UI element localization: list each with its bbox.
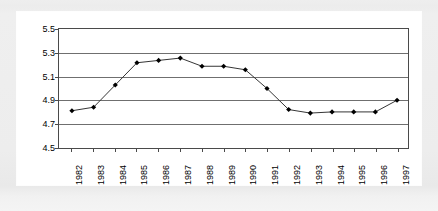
data-point-1996 <box>373 109 378 114</box>
y-tick-label-4-7: 4.7 <box>29 120 55 129</box>
x-tick-mark-1992 <box>289 148 290 152</box>
x-tick-label-1985: 1985 <box>140 165 149 185</box>
y-tick-label-4-9: 4.9 <box>29 96 55 105</box>
y-tick-label-5-1: 5.1 <box>29 73 55 82</box>
data-point-1982 <box>69 108 74 113</box>
x-tick-label-1995: 1995 <box>358 165 367 185</box>
data-point-1989 <box>221 64 226 69</box>
x-tick-mark-1994 <box>333 148 334 152</box>
x-tick-label-1990: 1990 <box>249 165 258 185</box>
x-tick-mark-1996 <box>376 148 377 152</box>
data-point-1988 <box>199 64 204 69</box>
x-tick-label-1984: 1984 <box>119 165 128 185</box>
x-tick-mark-1995 <box>354 148 355 152</box>
x-tick-mark-1984 <box>115 148 116 152</box>
y-axis-tick-labels: 5.55.35.14.94.74.5 <box>25 28 55 149</box>
x-tick-mark-1993 <box>311 148 312 152</box>
x-tick-mark-1986 <box>158 148 159 152</box>
x-tick-mark-1982 <box>71 148 72 152</box>
data-point-1986 <box>156 58 161 63</box>
y-tick-label-5-3: 5.3 <box>29 49 55 58</box>
x-tick-label-1997: 1997 <box>402 165 411 185</box>
series-line <box>72 58 397 113</box>
chart-screenshot: 5.55.35.14.94.74.5 198219831984198519861… <box>0 0 438 211</box>
x-tick-mark-1985 <box>136 148 137 152</box>
x-tick-mark-1997 <box>398 148 399 152</box>
x-tick-mark-1988 <box>202 148 203 152</box>
x-tick-mark-1991 <box>267 148 268 152</box>
data-point-1987 <box>178 56 183 61</box>
x-tick-label-1986: 1986 <box>162 165 171 185</box>
data-point-1993 <box>308 111 313 116</box>
plot-area <box>58 28 409 149</box>
x-tick-mark-1983 <box>93 148 94 152</box>
x-tick-label-1992: 1992 <box>293 165 302 185</box>
x-tick-mark-1987 <box>180 148 181 152</box>
x-tick-label-1983: 1983 <box>97 165 106 185</box>
x-tick-label-1996: 1996 <box>380 165 389 185</box>
data-point-1994 <box>329 109 334 114</box>
x-tick-label-1991: 1991 <box>271 165 280 185</box>
line-series <box>59 29 408 148</box>
x-tick-label-1989: 1989 <box>228 165 237 185</box>
x-tick-label-1987: 1987 <box>184 165 193 185</box>
x-axis-tick-labels: 1982198319841985198619871988198919901991… <box>58 153 409 193</box>
x-tick-mark-1990 <box>245 148 246 152</box>
x-tick-mark-1989 <box>224 148 225 152</box>
data-point-1995 <box>351 109 356 114</box>
chart-card: 5.55.35.14.94.74.5 198219831984198519861… <box>17 12 421 185</box>
x-tick-label-1993: 1993 <box>315 165 324 185</box>
y-tick-label-4-5: 4.5 <box>29 144 55 153</box>
y-tick-label-5-5: 5.5 <box>29 25 55 34</box>
x-tick-label-1988: 1988 <box>206 165 215 185</box>
x-tick-label-1994: 1994 <box>337 165 346 185</box>
y-tick-mark <box>55 148 59 149</box>
data-point-1997 <box>394 98 399 103</box>
x-tick-label-1982: 1982 <box>75 165 84 185</box>
